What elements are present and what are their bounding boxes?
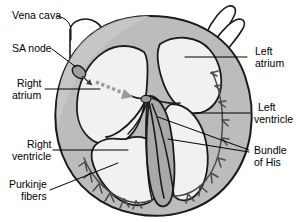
label-left-atrium-line2: atrium — [255, 58, 284, 70]
label-left-ventricle-line1: Left — [258, 102, 276, 114]
label-purkinje-fibers-line1: Purkinje — [9, 179, 47, 191]
label-left-atrium-line1: Left — [255, 46, 273, 58]
label-right-ventricle-line1: Right — [27, 139, 52, 151]
label-left-ventricle-line2: ventricle — [254, 114, 293, 126]
label-sa-node: SA node — [12, 43, 52, 55]
label-right-ventricle-line2: ventricle — [12, 151, 51, 163]
label-bundle-of-his-line2: of His — [254, 157, 281, 169]
label-right-atrium-line1: Right — [17, 78, 42, 90]
label-purkinje-fibers-line2: fibers — [21, 191, 47, 203]
label-right-atrium-line2: atrium — [12, 90, 41, 102]
heart-conduction-diagram: Vena cava SA node Right atrium Right ven… — [0, 0, 300, 222]
label-vena-cava: Vena cava — [12, 10, 61, 22]
label-bundle-of-his-line1: Bundle — [254, 145, 287, 157]
